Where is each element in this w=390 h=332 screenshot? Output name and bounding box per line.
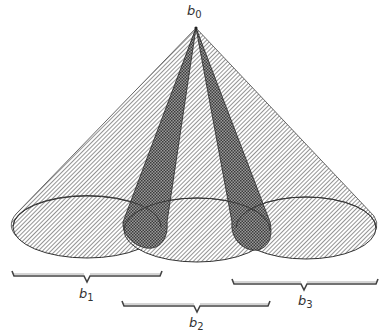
brace-b3 [232,279,378,290]
label-b3: b3 [298,294,313,310]
label-b3-sub: 3 [306,299,312,310]
label-b0: b0 [187,4,202,20]
label-b0-sub: 0 [195,9,201,20]
brace-b1 [12,271,162,282]
label-b1-sub: 1 [87,292,93,303]
cone-diagram [0,0,390,332]
label-b2: b2 [189,316,204,332]
label-b2-sub: 2 [197,321,203,332]
brace-b2 [122,301,270,312]
apex-point [194,26,197,29]
label-b1: b1 [79,287,94,303]
